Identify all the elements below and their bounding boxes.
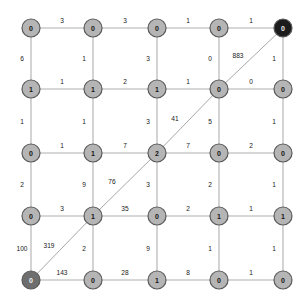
diagonal-path-segment	[99, 159, 150, 209]
edge-weight-label: 5	[208, 118, 212, 125]
edge-weight-label: 1	[82, 118, 86, 125]
edge-weight-label: 7	[123, 142, 127, 149]
edge-weight-label: 100	[16, 245, 27, 252]
edge-weight-label: 2	[186, 205, 190, 212]
edge-weight-label: 1	[60, 78, 64, 85]
edge-weight-label: 1	[249, 17, 253, 24]
edge-weight-label: 1	[272, 245, 276, 252]
edge-weight-label: 1	[186, 78, 190, 85]
diagonal-weight-label: 883	[232, 52, 243, 59]
graph-node-label: 0	[281, 277, 285, 284]
graph-node-label: 0	[217, 150, 221, 157]
graph-node-label: 0	[91, 25, 95, 32]
diagonal-weight-label: 41	[171, 115, 179, 122]
edge-weight-label: 0	[249, 78, 253, 85]
edge-labels-layer: 3311121017723352114328816130111351293211…	[16, 17, 276, 276]
edge-weight-label: 3	[146, 118, 150, 125]
graph-node-label: 0	[155, 213, 159, 220]
edge-weight-label: 1	[272, 118, 276, 125]
graph-node-label: 1	[91, 86, 95, 93]
graph-node-label: 1	[155, 86, 159, 93]
edge-weight-label: 1	[249, 205, 253, 212]
edge-weight-label: 1	[249, 269, 253, 276]
graph-node-label: 1	[29, 86, 33, 93]
edge-weight-label: 3	[146, 181, 150, 188]
graph-node-label: 0	[29, 213, 33, 220]
edge-weight-label: 9	[82, 181, 86, 188]
diagonal-weight-label: 76	[108, 178, 116, 185]
graph-node-label: 0	[217, 25, 221, 32]
graph-node-label: 0	[29, 277, 33, 284]
graph-node-label: 2	[155, 150, 159, 157]
edge-weight-label: 1	[82, 55, 86, 62]
edge-weight-label: 143	[56, 269, 67, 276]
edge-weight-label: 7	[186, 142, 190, 149]
graph-node-label: 0	[281, 25, 285, 32]
graph-node-label: 0	[29, 150, 33, 157]
graph-node-label: 1	[217, 213, 221, 220]
edge-weight-label: 1	[186, 17, 190, 24]
edge-weight-label: 1	[208, 245, 212, 252]
edge-weight-label: 3	[60, 205, 64, 212]
graph-node-label: 0	[155, 25, 159, 32]
graph-node-label: 0	[29, 25, 33, 32]
edge-weight-label: 0	[208, 55, 212, 62]
edge-weight-label: 1	[60, 142, 64, 149]
graph-node-label: 1	[91, 213, 95, 220]
edge-weight-label: 1	[20, 118, 24, 125]
edge-weight-label: 3	[60, 17, 64, 24]
graph-node-label: 0	[91, 277, 95, 284]
graph-node-label: 1	[281, 213, 285, 220]
graph-node-label: 1	[155, 277, 159, 284]
edge-weight-label: 28	[121, 269, 129, 276]
edge-weight-label: 8	[186, 269, 190, 276]
edge-weight-label: 6	[20, 55, 24, 62]
edge-weight-label: 2	[208, 181, 212, 188]
edge-weight-label: 2	[20, 181, 24, 188]
edge-weight-label: 2	[123, 78, 127, 85]
edge-weight-label: 2	[249, 142, 253, 149]
edge-weight-label: 3	[123, 17, 127, 24]
edge-weight-label: 3	[146, 55, 150, 62]
edge-weight-label: 9	[146, 245, 150, 252]
diagonal-weight-label: 319	[43, 242, 54, 249]
edge-weight-label: 1	[272, 55, 276, 62]
graph-node-label: 0	[217, 277, 221, 284]
graph-node-label: 0	[281, 86, 285, 93]
graph-node-label: 1	[91, 150, 95, 157]
graph-node-label: 0	[217, 86, 221, 93]
edge-weight-label: 35	[121, 205, 129, 212]
grid-graph-canvas: 3311121017723352114328816130111351293211…	[0, 0, 308, 305]
edge-weight-label: 2	[82, 245, 86, 252]
graph-node-label: 0	[281, 150, 285, 157]
edge-weight-label: 1	[272, 181, 276, 188]
